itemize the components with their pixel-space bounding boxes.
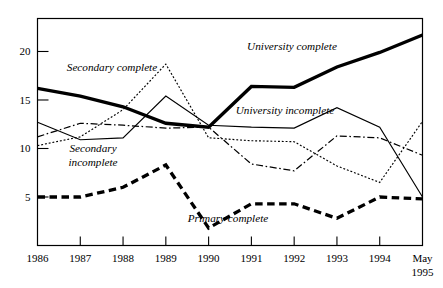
y-tick-label: 5 bbox=[25, 191, 31, 203]
x-tick-label: 1986 bbox=[27, 252, 50, 264]
series-annotation: incomplete bbox=[68, 156, 117, 168]
x-tick-label: 1990 bbox=[198, 252, 221, 264]
series-annotation: University incomplete bbox=[236, 104, 335, 116]
line-chart: 5101520 19861987198819891990199119921993… bbox=[0, 0, 443, 288]
series-annotation: Secondary bbox=[69, 142, 116, 154]
chart-background bbox=[0, 0, 443, 288]
x-tick-label: 1989 bbox=[155, 252, 178, 264]
x-tick-label: 1988 bbox=[112, 252, 135, 264]
x-tick-label: 1992 bbox=[283, 252, 305, 264]
x-tick-label: 1987 bbox=[69, 252, 92, 264]
x-tick-label-secondary: 1995 bbox=[412, 266, 435, 278]
series-annotation: University complete bbox=[247, 40, 337, 52]
x-tick-label: May bbox=[412, 252, 433, 264]
x-tick-label: 1993 bbox=[326, 252, 349, 264]
y-tick-label: 10 bbox=[20, 142, 32, 154]
series-annotation: Secondary complete bbox=[67, 61, 157, 73]
x-tick-label: 1994 bbox=[369, 252, 392, 264]
chart-canvas: 5101520 19861987198819891990199119921993… bbox=[0, 0, 443, 288]
x-tick-label: 1991 bbox=[240, 252, 262, 264]
y-tick-label: 15 bbox=[20, 94, 32, 106]
series-annotation: Primary complete bbox=[187, 212, 268, 224]
y-tick-label: 20 bbox=[20, 45, 32, 57]
